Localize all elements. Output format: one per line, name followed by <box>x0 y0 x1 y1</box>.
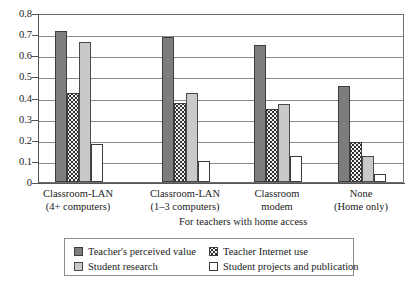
y-tick-label: 0.2 <box>0 136 32 146</box>
y-tick-text: 0.6 <box>2 51 32 61</box>
x-axis-category-label: None(Home only) <box>306 188 416 213</box>
y-tick-label: 0.6 <box>0 51 32 61</box>
chart-legend: Teacher's perceived value Student resear… <box>64 238 354 276</box>
y-tick-label: 0.5 <box>0 72 32 82</box>
x-axis-caption: For teachers with home access <box>179 216 307 228</box>
bar <box>266 109 278 182</box>
x-axis-category-line: Classroom-LAN <box>23 188 133 201</box>
legend-swatch-white-icon <box>209 262 218 271</box>
bar <box>290 156 302 182</box>
bar <box>55 31 67 182</box>
bar <box>186 93 198 182</box>
legend-label: Teacher Internet use <box>223 246 308 257</box>
y-tick-text: 0 <box>2 178 32 188</box>
y-tick-text: 0.8 <box>2 9 32 19</box>
y-tick-text: 0.4 <box>2 94 32 104</box>
bar <box>198 161 210 182</box>
bar <box>362 156 374 182</box>
legend-swatch-dotted-icon <box>209 247 218 256</box>
bar <box>162 37 174 182</box>
gridline <box>39 78 403 79</box>
y-tick-label: 0.3 <box>0 115 32 125</box>
legend-label: Student projects and publication <box>223 261 359 272</box>
y-tick-label: 0.7 <box>0 30 32 40</box>
bar <box>67 93 79 182</box>
bar <box>91 144 103 182</box>
legend-label: Teacher's perceived value <box>88 246 196 257</box>
x-axis-category-line: (4+ computers) <box>23 201 133 214</box>
bar-chart-figure: 0.80.70.60.50.40.30.20.10 Classroom-LAN(… <box>0 0 417 282</box>
legend-item-teacher-internet-use: Teacher Internet use <box>209 244 308 258</box>
bar <box>374 174 386 182</box>
legend-label: Student research <box>88 261 158 272</box>
y-tick-text: 0.3 <box>2 115 32 125</box>
x-axis-line <box>32 183 405 184</box>
bar <box>174 103 186 182</box>
y-tick-text: 0.2 <box>2 136 32 146</box>
bar <box>338 86 350 182</box>
plot-area <box>38 14 404 183</box>
y-tick-label: 0.8 <box>0 9 32 19</box>
legend-item-student-projects: Student projects and publication <box>209 259 359 273</box>
y-tick-label: 0.1 <box>0 157 32 167</box>
bar <box>254 45 266 182</box>
y-axis-line <box>38 14 39 184</box>
x-axis-category-label: Classroom-LAN(4+ computers) <box>23 188 133 213</box>
bar <box>278 104 290 182</box>
legend-item-student-research: Student research <box>74 259 158 273</box>
legend-swatch-light-gray-icon <box>74 262 83 271</box>
gridline <box>39 36 403 37</box>
bar <box>350 142 362 182</box>
y-tick-text: 0.1 <box>2 157 32 167</box>
legend-item-teachers-perceived-value: Teacher's perceived value <box>74 244 196 258</box>
y-tick-label: 0 <box>0 178 32 188</box>
x-axis-category-line: None <box>306 188 416 201</box>
legend-swatch-dark-gray-icon <box>74 247 83 256</box>
y-tick-text: 0.7 <box>2 30 32 40</box>
bar <box>79 42 91 182</box>
x-axis-category-line: (Home only) <box>306 201 416 214</box>
y-tick-label: 0.4 <box>0 94 32 104</box>
y-tick-text: 0.5 <box>2 72 32 82</box>
gridline <box>39 57 403 58</box>
